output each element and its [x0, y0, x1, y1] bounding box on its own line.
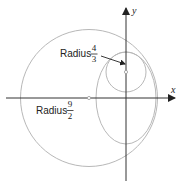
- small-radius-word: Radius: [60, 48, 91, 59]
- small-circle-radius-label: Radius 4 3: [60, 43, 98, 64]
- circles-diagram: x y Radius 4 3 Radius 9 2: [0, 0, 183, 186]
- x-axis-label: x: [170, 84, 176, 95]
- large-circle-radius-label: Radius 9 2: [36, 99, 74, 121]
- small-radius-denominator: 3: [92, 54, 97, 64]
- y-axis-label: y: [131, 5, 137, 16]
- large-circle-center-point: [87, 96, 90, 99]
- small-radius-numerator: 4: [92, 43, 97, 53]
- large-radius-numerator: 9: [68, 99, 73, 109]
- small-circle-center-point: [124, 70, 127, 73]
- large-radius-word: Radius: [36, 105, 67, 116]
- large-radius-denominator: 2: [68, 111, 73, 121]
